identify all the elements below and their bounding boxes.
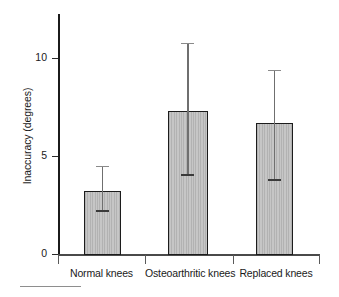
x-axis-label-osteoarthritic-knees: Osteoarthritic knees — [145, 267, 233, 279]
y-axis-tick-label-0: 0 — [7, 248, 47, 259]
y-axis-tick-label-10: 10 — [7, 52, 47, 63]
y-axis-title: Inaccuracy (degrees) — [21, 46, 33, 226]
error-bar-cap-lower-osteoarthritic-knees — [181, 174, 194, 176]
chart-figure: Inaccuracy (degrees) 10 5 0 — [0, 0, 339, 297]
x-axis-separator-1 — [145, 255, 146, 264]
y-axis-line — [58, 14, 60, 256]
error-bar-stem-osteoarthritic-knees — [187, 43, 188, 175]
error-bar-cap-upper-osteoarthritic-knees — [181, 43, 194, 44]
error-bar-cap-lower-replaced-knees — [268, 179, 281, 181]
y-axis-tick-5 — [52, 156, 58, 157]
x-axis-separator-left — [58, 255, 59, 264]
x-axis-separator-right — [319, 255, 320, 264]
plot-area: Inaccuracy (degrees) 10 5 0 — [0, 0, 339, 297]
x-axis-label-normal-knees: Normal knees — [58, 267, 145, 279]
error-bar-cap-upper-replaced-knees — [268, 70, 281, 71]
error-bar-cap-upper-normal-knees — [96, 166, 109, 167]
y-axis-tick-label-5: 5 — [7, 150, 47, 161]
error-bar-stem-replaced-knees — [274, 70, 275, 180]
x-axis-separator-2 — [233, 255, 234, 264]
error-bar-cap-lower-normal-knees — [96, 210, 109, 212]
footer-rule — [20, 286, 81, 287]
x-axis-label-replaced-knees: Replaced knees — [233, 267, 319, 279]
y-axis-tick-10 — [52, 58, 58, 59]
error-bar-stem-normal-knees — [102, 166, 103, 211]
